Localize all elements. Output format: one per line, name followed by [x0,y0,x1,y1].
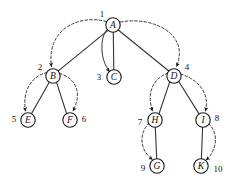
tree-edge-layer [32,30,203,159]
tree-node-b[interactable]: B [46,69,60,83]
traversal-edge-layer [25,20,216,160]
visit-order-label-e: 5 [12,114,17,124]
tree-node-d[interactable]: D [167,69,181,83]
visit-order-label-k: 10 [214,164,224,174]
traversal-arrow-d-h [150,73,168,111]
traversal-arrow-i-k [206,124,215,161]
node-letter-g: G [154,161,161,171]
node-letter-d: D [170,71,178,81]
tree-node-c[interactable]: C [107,70,121,84]
traversal-arrow-a-d [121,21,180,67]
tree-edge-d-h [159,81,170,113]
node-letter-a: A [109,20,116,30]
tree-edge-i-k [201,127,202,159]
tree-node-e[interactable]: E [21,113,35,127]
visit-order-label-d: 4 [185,62,190,72]
visit-order-label-f: 6 [82,114,87,124]
tree-edge-a-d [118,30,169,71]
traversal-arrow-a-b [51,20,106,67]
node-letter-f: F [66,115,73,125]
tree-node-k[interactable]: K [194,159,208,173]
tree-traversal-diagram: ABCDEFHIGK 12345678910 [0,0,237,183]
visit-order-label-h: 7 [138,117,143,127]
visit-order-label-i: 8 [215,113,220,123]
node-letter-h: H [151,115,160,125]
node-letter-c: C [111,72,118,82]
tree-edge-h-g [155,127,156,159]
tree-edge-a-c [113,32,114,70]
tree-edge-b-e [32,82,50,114]
traversal-arrow-b-f [60,74,78,112]
visit-order-label-b: 2 [38,62,43,72]
visit-order-label-a: 1 [100,9,105,19]
tree-node-f[interactable]: F [63,113,77,127]
tree-edge-b-f [57,82,67,114]
tree-edge-d-i [179,81,199,113]
visit-order-label-g: 9 [141,163,146,173]
tree-node-a[interactable]: A [106,18,120,32]
node-letter-k: K [197,161,205,171]
node-letter-e: E [24,115,31,125]
order-label-layer: 12345678910 [12,9,223,174]
node-letter-b: B [50,71,56,81]
tree-node-h[interactable]: H [148,113,162,127]
tree-edge-a-b [58,30,108,71]
node-layer: ABCDEFHIGK [21,18,210,173]
tree-node-i[interactable]: I [196,113,210,127]
tree-node-g[interactable]: G [150,159,164,173]
visit-order-label-c: 3 [97,72,102,82]
traversal-arrow-h-g [142,123,153,160]
diagram-canvas: ABCDEFHIGK 12345678910 [0,0,237,183]
